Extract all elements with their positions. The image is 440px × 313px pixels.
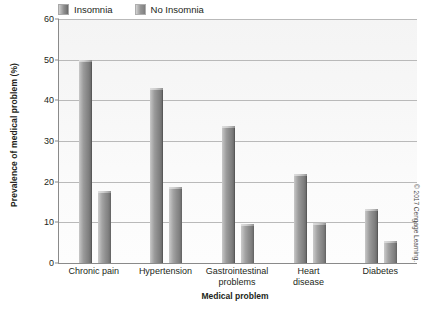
x-axis-category-label: Gastrointestinalproblems [201,266,273,288]
bar [98,191,111,263]
bar-top-highlight [222,126,235,128]
y-axis-tick-label: 10 [44,217,54,227]
x-axis-category-label-line: Chronic pain [58,266,130,277]
bar-top-highlight [241,224,254,226]
legend-entry-no-insomnia: No Insomnia [135,4,204,15]
x-axis-category-label-line: Gastrointestinal [201,266,273,277]
x-axis-category-label-line: Hypertension [130,266,202,277]
x-axis-category-label-line: Diabetes [344,266,416,277]
x-axis-category-label-line: disease [273,277,345,288]
bar-body [294,174,307,263]
y-axis-tick-label: 60 [44,14,54,24]
bar-top-highlight [384,241,397,243]
bar-body [313,223,326,263]
x-axis-category-label: Heartdisease [273,266,345,288]
bar [313,223,326,263]
bar [169,187,182,263]
x-axis-category-label: Diabetes [344,266,416,277]
bar-top-highlight [79,60,92,62]
y-axis-tick-label: 0 [49,258,54,268]
bar-body [222,126,235,263]
bar-group [365,19,397,263]
bar-body [98,191,111,263]
bar-groups [59,19,417,263]
bar-group [150,19,182,263]
y-axis-tick-label: 40 [44,95,54,105]
plot-area: 0102030405060 [58,19,417,264]
bar-group [222,19,254,263]
bar-body [384,241,397,263]
bar-top-highlight [150,88,163,90]
bar [150,88,163,263]
bar-body [150,88,163,263]
bar-top-highlight [313,223,326,225]
bar [384,241,397,263]
x-axis-category-label: Chronic pain [58,266,130,277]
y-axis-tick-label: 30 [44,136,54,146]
copyright-credit: © 2017 Cengage Learning. [413,184,420,313]
x-axis-category-label-line: Heart [273,266,345,277]
bar-body [169,187,182,263]
bar-top-highlight [169,187,182,189]
y-axis-title: Prevalence of medical problem (%) [9,35,19,235]
bar [365,209,378,263]
bar-chart-figure: Insomnia No Insomnia Prevalence of medic… [0,0,440,313]
bar-body [365,209,378,263]
bar [222,126,235,263]
x-axis-category-labels: Chronic painHypertensionGastrointestinal… [58,266,416,292]
legend-swatch-icon-no-insomnia [135,4,146,15]
bar-top-highlight [294,174,307,176]
chart-legend: Insomnia No Insomnia [58,2,204,16]
x-axis-category-label-line: problems [201,277,273,288]
bar [241,224,254,263]
x-axis-category-label: Hypertension [130,266,202,277]
bar-group [294,19,326,263]
legend-label-no-insomnia: No Insomnia [151,4,204,15]
bar-top-highlight [98,191,111,193]
bar-body [79,60,92,263]
bar [79,60,92,263]
bar [294,174,307,263]
legend-entry-insomnia: Insomnia [58,4,113,15]
bar-body [241,224,254,263]
x-axis-title: Medical problem [60,291,410,301]
legend-label-insomnia: Insomnia [74,4,113,15]
legend-swatch-icon-insomnia [58,4,69,15]
bar-top-highlight [365,209,378,211]
y-axis-tick-label: 20 [44,177,54,187]
bar-group [79,19,111,263]
y-axis-tick-label: 50 [44,55,54,65]
